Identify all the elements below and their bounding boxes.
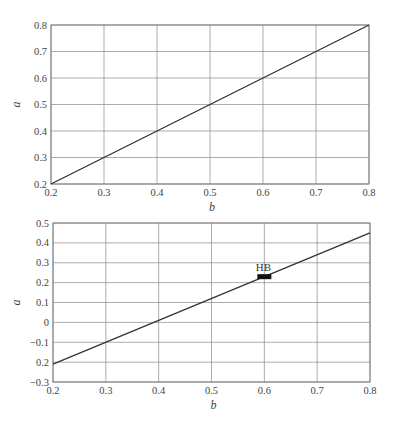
chart-figure: 0.20.30.40.50.60.70.80.20.30.40.50.60.70…	[0, 0, 393, 426]
chart-panel-2: 0.20.30.40.50.60.70.8−0.30.2−0.100.10.20…	[9, 218, 377, 413]
y-tick-label: 0.4	[34, 126, 48, 137]
y-axis-label: a	[9, 300, 23, 306]
hb-marker	[257, 274, 271, 279]
x-tick-label: 0.8	[362, 187, 375, 198]
x-axis-label: b	[209, 200, 215, 214]
y-tick-label: 0.5	[36, 218, 49, 229]
x-tick-label: 0.4	[150, 187, 164, 198]
chart-panel-1: 0.20.30.40.50.60.70.80.20.30.40.50.60.70…	[9, 20, 376, 215]
x-tick-label: 0.5	[203, 187, 216, 198]
y-tick-label: 0.3	[36, 257, 49, 268]
x-tick-label: 0.3	[99, 385, 112, 396]
x-tick-label: 0.8	[363, 385, 376, 396]
hb-label: HB	[256, 261, 271, 273]
y-tick-label: 0.8	[34, 20, 47, 31]
y-tick-label: 0	[44, 317, 49, 328]
y-tick-label: −0.1	[30, 337, 49, 348]
y-tick-label: 0.2	[36, 277, 49, 288]
y-tick-label: 0.6	[34, 73, 47, 84]
x-tick-label: 0.4	[152, 385, 166, 396]
x-tick-label: 0.5	[205, 385, 218, 396]
x-tick-label: 0.7	[309, 187, 322, 198]
x-tick-label: 0.6	[258, 385, 271, 396]
x-tick-label: 0.6	[256, 187, 269, 198]
y-tick-label: −0.3	[30, 377, 49, 388]
y-tick-label: 0.5	[34, 99, 47, 110]
y-tick-label: 0.1	[36, 297, 49, 308]
y-tick-label: 0.2	[34, 179, 47, 190]
y-tick-label: 0.7	[34, 46, 47, 57]
x-axis-label: b	[211, 398, 217, 412]
x-tick-label: 0.7	[311, 385, 324, 396]
x-tick-label: 0.3	[97, 187, 110, 198]
y-axis-label: a	[9, 102, 23, 108]
grid-lines	[53, 223, 370, 382]
y-tick-label: 0.3	[34, 152, 47, 163]
y-tick-label: 0.4	[36, 237, 50, 248]
y-tick-label: 0.2	[36, 357, 49, 368]
